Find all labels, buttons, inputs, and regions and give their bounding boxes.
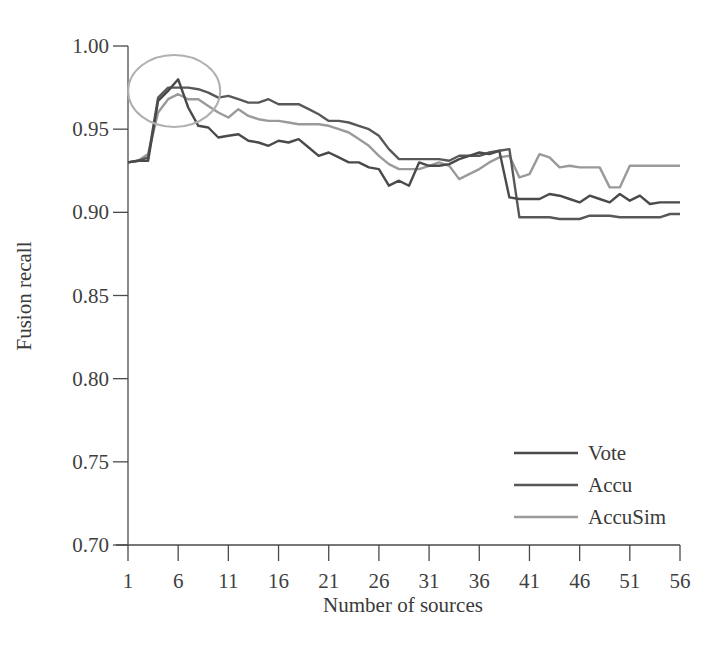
x-tick-label: 41	[519, 569, 540, 593]
legend-label-vote: Vote	[588, 441, 626, 465]
x-tick-label: 36	[469, 569, 490, 593]
y-axis: 0.700.750.800.850.900.951.00	[72, 34, 128, 557]
y-tick-label: 0.90	[72, 200, 109, 224]
x-tick-label: 46	[569, 569, 590, 593]
x-tick-label: 6	[173, 569, 184, 593]
series-line-vote	[128, 79, 680, 204]
y-tick-label: 0.85	[72, 284, 109, 308]
x-tick-label: 11	[218, 569, 238, 593]
y-axis-title: Fusion recall	[12, 241, 36, 350]
y-tick-label: 0.80	[72, 367, 109, 391]
x-tick-label: 56	[670, 569, 691, 593]
x-axis-title: Number of sources	[323, 593, 483, 617]
line-chart: 0.700.750.800.850.900.951.00 16111621263…	[0, 0, 724, 656]
legend-label-accusim: AccuSim	[588, 505, 666, 529]
x-tick-label: 31	[419, 569, 440, 593]
y-tick-label: 0.75	[72, 450, 109, 474]
legend-label-accu: Accu	[588, 473, 633, 497]
x-axis: 1611162126313641465156	[116, 545, 691, 593]
x-tick-label: 1	[123, 569, 134, 593]
y-tick-label: 0.95	[72, 117, 109, 141]
series-layer	[128, 79, 680, 219]
x-tick-label: 21	[318, 569, 339, 593]
y-tick-label: 1.00	[72, 34, 109, 58]
x-tick-label: 51	[619, 569, 640, 593]
series-line-accusim	[128, 94, 680, 187]
y-tick-label: 0.70	[72, 533, 109, 557]
legend: VoteAccuAccuSim	[514, 441, 666, 529]
x-tick-label: 16	[268, 569, 289, 593]
x-tick-label: 26	[368, 569, 389, 593]
